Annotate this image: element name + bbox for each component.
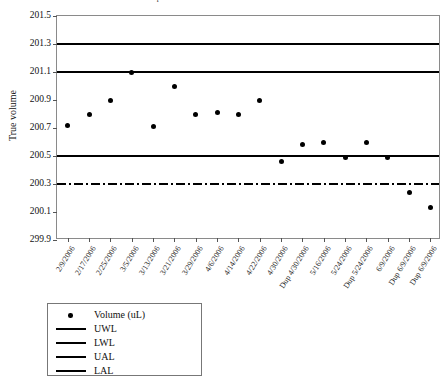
y-tick-mark [53,212,57,213]
data-point [364,140,369,145]
x-tick-mark [324,238,325,242]
x-tick-mark [430,238,431,242]
legend-line-dashed-icon [56,342,86,344]
legend-label: UAL [94,352,115,362]
data-point [129,70,134,75]
x-tick-mark [68,238,69,242]
legend-marker-dot-icon [68,313,73,318]
y-tick-mark [53,100,57,101]
x-tick-mark [260,238,261,242]
control-chart: Pipette Performance Control Chart - Jan … [0,0,447,376]
reference-line-uwl [57,71,439,73]
legend-key-dashdot-icon [48,364,94,376]
y-tick-label: 201.5 [9,11,51,21]
reference-line-lwl [57,155,439,157]
x-tick-mark [238,238,239,242]
reference-line-lal [57,183,439,185]
data-point [385,155,390,160]
legend-key-dot-icon [48,308,94,322]
legend-item: UAL [48,350,201,364]
x-tick-mark [89,238,90,242]
x-tick-mark [153,238,154,242]
legend-label: LAL [94,366,113,376]
x-tick-mark [302,238,303,242]
y-tick-mark [53,240,57,241]
reference-line-ual [57,43,439,45]
y-tick-label: 201.3 [9,39,51,49]
x-tick-mark [196,238,197,242]
x-tick-mark [174,238,175,242]
legend: Volume (uL)UWLLWLUALLAL [47,303,202,376]
data-point [279,159,284,164]
y-tick-label: 200.1 [9,207,51,217]
y-tick-label: 299.9 [9,235,51,245]
legend-item: LWL [48,336,201,350]
y-tick-label: 201.1 [9,67,51,77]
data-point [87,112,92,117]
data-point [300,142,305,147]
legend-line-solid-icon [56,328,86,330]
data-point [65,123,70,128]
x-tick-mark [388,238,389,242]
legend-key-dashed-icon [48,336,94,350]
x-tick-mark [132,238,133,242]
legend-item: LAL [48,364,201,376]
legend-label: Volume (uL) [94,310,145,320]
x-tick-mark [110,238,111,242]
data-point [407,190,412,195]
data-point [193,112,198,117]
legend-item: UWL [48,322,201,336]
x-tick-mark [281,238,282,242]
y-tick-mark [53,16,57,17]
data-point [428,205,433,210]
legend-item: Volume (uL) [48,308,201,322]
y-axis-title: True volume [7,71,18,161]
data-point [343,155,348,160]
legend-line-dotted-icon [56,356,86,358]
y-tick-label: 200.3 [9,179,51,189]
x-tick-mark [217,238,218,242]
plot-area: 201.5201.3201.1200.9200.7200.5200.3200.1… [56,15,440,239]
chart-title: Pipette Performance Control Chart - Jan … [0,0,447,2]
data-point [151,124,156,129]
legend-key-solid-icon [48,322,94,336]
y-tick-label: 200.5 [9,151,51,161]
x-tick-mark [366,238,367,242]
y-tick-label: 200.7 [9,123,51,133]
data-point [236,112,241,117]
x-tick-mark [345,238,346,242]
data-point [257,98,262,103]
y-tick-mark [53,128,57,129]
data-point [321,140,326,145]
data-point [172,84,177,89]
legend-line-dashdot-icon [56,370,86,372]
legend-label: LWL [94,338,115,348]
x-tick-mark [409,238,410,242]
legend-label: UWL [94,324,117,334]
data-point [215,110,220,115]
legend-key-dotted-icon [48,350,94,364]
y-tick-label: 200.9 [9,95,51,105]
data-point [108,98,113,103]
